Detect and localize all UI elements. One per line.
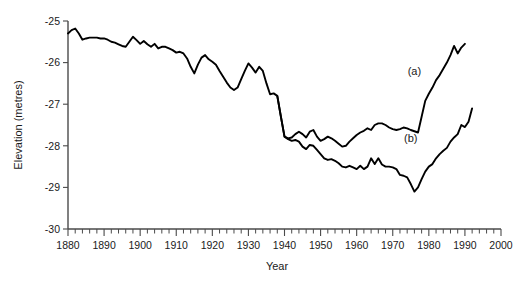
x-tick-label: 1990 <box>453 239 477 251</box>
x-axis-title: Year <box>266 260 289 272</box>
y-tick-label: -26 <box>45 56 60 68</box>
x-tick-label: 1900 <box>128 239 152 251</box>
y-tick-label: -29 <box>45 181 60 193</box>
series-annotation: (b) <box>404 132 417 144</box>
x-tick-label: 1910 <box>165 239 189 251</box>
series-annotation: (a) <box>408 65 421 77</box>
x-tick-label: 1960 <box>345 239 369 251</box>
series-line-a <box>68 28 465 146</box>
x-tick-label: 1920 <box>201 239 225 251</box>
x-tick-label: 1890 <box>92 239 116 251</box>
x-tick-label: 1950 <box>309 239 333 251</box>
x-tick-label: 1980 <box>417 239 441 251</box>
y-axis: -25-26-27-28-29-30 <box>45 15 68 235</box>
x-axis-tick-labels: 1880189019001910192019301940195019601970… <box>56 239 513 251</box>
y-tick-label: -30 <box>45 223 60 235</box>
chart-canvas: -25-26-27-28-29-30 188018901900191019201… <box>0 0 526 282</box>
series-line-b <box>277 96 472 192</box>
y-axis-title: Elevation (metres) <box>12 80 24 169</box>
y-axis-tick-labels: -25-26-27-28-29-30 <box>45 15 60 235</box>
x-tick-label: 1930 <box>237 239 261 251</box>
elevation-time-series-chart: -25-26-27-28-29-30 188018901900191019201… <box>0 0 526 282</box>
x-tick-label: 2000 <box>489 239 513 251</box>
x-tick-label: 1940 <box>273 239 297 251</box>
x-tick-label: 1970 <box>381 239 405 251</box>
data-series-group <box>68 28 472 191</box>
y-axis-ticks <box>63 21 68 229</box>
y-tick-label: -28 <box>45 140 60 152</box>
y-tick-label: -25 <box>45 15 60 27</box>
x-axis-ticks <box>68 229 501 236</box>
x-tick-label: 1880 <box>56 239 80 251</box>
y-tick-label: -27 <box>45 98 60 110</box>
x-axis: 1880189019001910192019301940195019601970… <box>56 229 513 251</box>
